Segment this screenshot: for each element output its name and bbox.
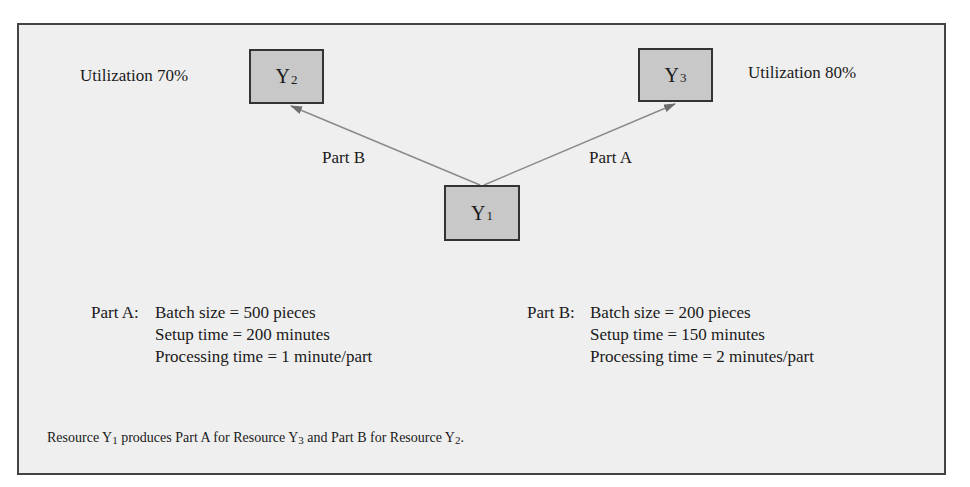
part-a-spec: Part A: Batch size = 500 pieces Setup ti…: [91, 302, 372, 368]
part-b-batch-size: Batch size = 200 pieces: [590, 302, 814, 324]
caption-text-1: Resource Y: [47, 430, 112, 445]
node-y1: Y1: [444, 185, 520, 241]
node-y3-letter: Y: [665, 64, 679, 87]
node-y1-letter: Y: [471, 202, 485, 225]
edge-label-part-b: Part B: [322, 148, 365, 168]
part-b-spec: Part B: Batch size = 200 pieces Setup ti…: [527, 302, 814, 368]
arrow-y1-to-y3: [484, 104, 675, 185]
part-a-processing-time: Processing time = 1 minute/part: [155, 346, 372, 368]
node-y3: Y3: [638, 48, 713, 102]
utilization-y2-label: Utilization 70%: [80, 66, 188, 86]
node-y3-subscript: 3: [680, 70, 687, 86]
diagram-caption: Resource Y1 produces Part A for Resource…: [47, 430, 464, 446]
node-y1-subscript: 1: [486, 208, 493, 224]
utilization-y3-label: Utilization 80%: [748, 63, 856, 83]
part-b-setup-time: Setup time = 150 minutes: [590, 324, 814, 346]
part-a-heading: Part A:: [91, 302, 155, 368]
node-y2-letter: Y: [276, 65, 290, 88]
arrow-y1-to-y2: [291, 106, 480, 185]
part-a-batch-size: Batch size = 500 pieces: [155, 302, 372, 324]
caption-text-2: produces Part A for Resource Y: [118, 430, 299, 445]
caption-text-3: and Part B for Resource Y: [304, 430, 455, 445]
node-y2-subscript: 2: [291, 72, 298, 88]
part-b-heading: Part B:: [527, 302, 590, 368]
edge-label-part-a: Part A: [589, 148, 632, 168]
part-b-processing-time: Processing time = 2 minutes/part: [590, 346, 814, 368]
part-a-setup-time: Setup time = 200 minutes: [155, 324, 372, 346]
node-y2: Y2: [249, 49, 324, 104]
caption-text-4: .: [460, 430, 464, 445]
